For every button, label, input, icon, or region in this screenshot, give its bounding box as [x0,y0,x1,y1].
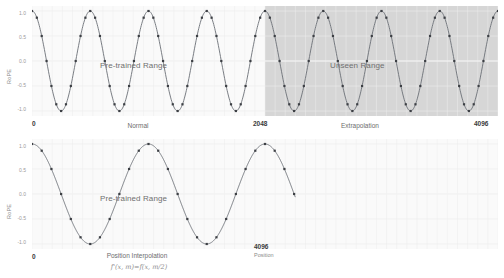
rope-position-interpolation-figure: RoPE 1.0 0.5 0.0 -0.5 -1.0 Pre-trained R… [0,0,504,278]
x-axis-title-bottom: Position [254,252,274,258]
y-tick-bottom-4: -0.5 [6,215,26,221]
x-tick-top-2048: 2048 [253,120,267,127]
caption-extrapolation: Extrapolation [310,122,410,129]
y-tick-bottom-5: -1.0 [6,239,26,245]
annotation-unseen-range-top: Unseen Range [330,61,385,70]
annotation-pretrained-range-top: Pre-trained Range [100,61,167,70]
x-tick-bottom-0: 0 [32,253,36,260]
y-tick-bottom-3: 0.0 [6,191,26,197]
y-tick-bottom-1: 1.0 [6,143,26,149]
y-tick-top-4: -0.5 [6,82,26,88]
annotation-pretrained-range-bottom: Pre-trained Range [100,194,167,203]
panel-normal-extrapolation: RoPE 1.0 0.5 0.0 -0.5 -1.0 Pre-trained R… [0,0,504,139]
y-tick-bottom-2: 0.5 [6,167,26,173]
panel-position-interpolation: RoPE 1.0 0.5 0.0 -0.5 -1.0 Pre-trained R… [0,139,504,278]
y-tick-top-1: 1.0 [6,10,26,16]
x-tick-top-4096: 4096 [474,120,488,127]
y-tick-top-5: -1.0 [6,106,26,112]
caption-normal: Normal [88,122,188,129]
caption-position-interpolation: Position Interpolation [67,252,207,259]
formula-position-interpolation: f'(x, m)=f(x, m/2) [79,263,199,271]
x-tick-bottom-4096: 4096 [254,243,268,250]
y-tick-top-3: 0.0 [6,58,26,64]
y-tick-top-2: 0.5 [6,34,26,40]
x-tick-top-0: 0 [32,120,36,127]
